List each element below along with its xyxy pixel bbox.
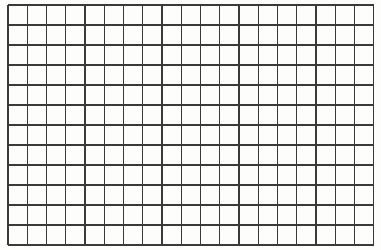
grid-svg <box>0 0 381 250</box>
grid-horizontal-lines <box>8 5 374 245</box>
screenshot-canvas <box>0 0 381 250</box>
grid-figure <box>0 0 381 250</box>
